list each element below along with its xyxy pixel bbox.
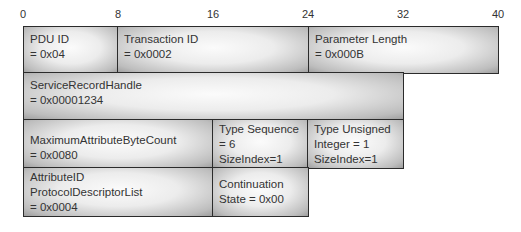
field-value: = 0x0002 <box>124 47 303 62</box>
field-label: Type Sequence <box>219 122 302 137</box>
field-value: = 0x000B <box>315 47 492 62</box>
field-size-index: SizeIndex=1 <box>314 152 397 167</box>
bit-tick-8: 8 <box>115 8 121 20</box>
field-value: Integer = 1 <box>314 137 397 152</box>
field-service-record-handle: ServiceRecordHandle = 0x00001234 <box>23 72 404 121</box>
bit-tick-40: 40 <box>492 8 504 20</box>
field-attribute-id: AttributeID ProtocolDescriptorList = 0x0… <box>23 167 214 217</box>
field-value: = 0x00001234 <box>30 93 397 108</box>
bit-tick-32: 32 <box>397 8 409 20</box>
field-label: Continuation <box>219 177 302 192</box>
field-label: PDU ID <box>30 32 112 47</box>
field-label: MaximumAttributeByteCount <box>30 133 207 148</box>
field-value: = 6 <box>219 137 302 152</box>
field-label: Parameter Length <box>315 32 492 47</box>
field-parameter-length: Parameter Length = 0x000B <box>308 26 499 74</box>
field-size-index: SizeIndex=1 <box>219 152 302 167</box>
field-value: State = 0x00 <box>219 192 302 207</box>
field-transaction-id: Transaction ID = 0x0002 <box>117 26 310 74</box>
field-value: = 0x0080 <box>30 148 207 163</box>
field-label: Type Unsigned <box>314 122 397 137</box>
field-label: ServiceRecordHandle <box>30 78 397 93</box>
field-value: = 0x0004 <box>30 200 207 215</box>
field-maximum-attribute-byte-count: MaximumAttributeByteCount = 0x0080 <box>23 119 214 169</box>
field-type-unsigned-integer: Type Unsigned Integer = 1 SizeIndex=1 <box>307 119 404 169</box>
bit-tick-0: 0 <box>20 8 26 20</box>
field-value: = 0x04 <box>30 47 112 62</box>
field-label: Transaction ID <box>124 32 303 47</box>
bit-tick-24: 24 <box>302 8 314 20</box>
field-pdu-id: PDU ID = 0x04 <box>23 26 119 74</box>
bit-tick-16: 16 <box>207 8 219 20</box>
field-label-2: ProtocolDescriptorList <box>30 185 207 200</box>
field-label: AttributeID <box>30 170 207 185</box>
field-continuation-state: Continuation State = 0x00 <box>212 167 309 217</box>
field-type-sequence: Type Sequence = 6 SizeIndex=1 <box>212 119 309 169</box>
